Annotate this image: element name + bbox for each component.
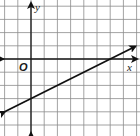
origin-label: O: [19, 61, 28, 73]
y-axis-label: y: [34, 1, 40, 13]
x-axis-label: x: [126, 61, 132, 73]
plotted-line: [5, 46, 136, 111]
coordinate-graph: x y O: [0, 0, 140, 136]
